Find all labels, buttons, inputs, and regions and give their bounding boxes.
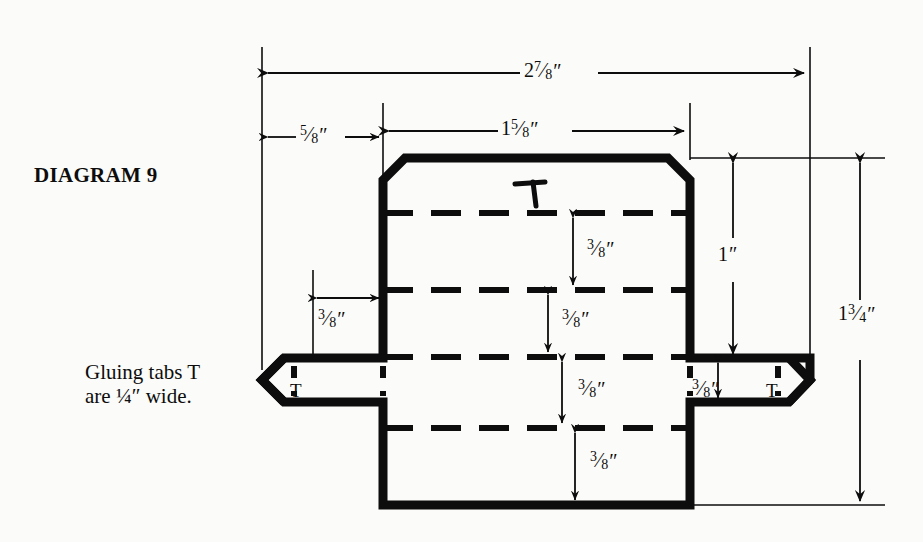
left-gluing-tab-label: T [290,380,302,402]
gluing-note-line-2: are ¼″ wide. [85,384,192,408]
dimension-label-overall-width: 27⁄8″ [524,60,561,83]
right-gluing-tab-label: T [766,380,778,402]
gluing-tabs-note: Gluing tabs T are ¼″ wide. [85,360,200,408]
dimension-label-panel-4: 3⁄8″ [590,450,617,473]
dimension-label-body-width: 15⁄8″ [501,118,538,141]
dimension-label-left-inset: 3⁄8″ [318,308,345,331]
top-panel-tab-glyph [515,182,545,206]
page-title: DIAGRAM 9 [34,163,157,187]
diagram-page: DIAGRAM 9 Gluing tabs T are ¼″ wide. 27⁄… [0,0,923,542]
dimension-label-tab-height: 3⁄8″ [692,378,719,401]
dimension-label-panel-2: 3⁄8″ [562,308,589,331]
dimension-label-left-tab-width: 5⁄8″ [300,124,327,147]
dimension-label-panel-3: 3⁄8″ [578,378,605,401]
dimension-label-overall-height: 13⁄4″ [838,303,875,326]
dimension-label-height-to-tab: 1″ [718,243,737,266]
box-template-drawing [0,0,923,542]
gluing-note-line-1: Gluing tabs T [85,360,200,384]
fold-lines-horizontal [383,213,690,428]
box-outline-tab-chamfers [262,358,810,402]
dimension-label-panel-1: 3⁄8″ [587,238,614,261]
